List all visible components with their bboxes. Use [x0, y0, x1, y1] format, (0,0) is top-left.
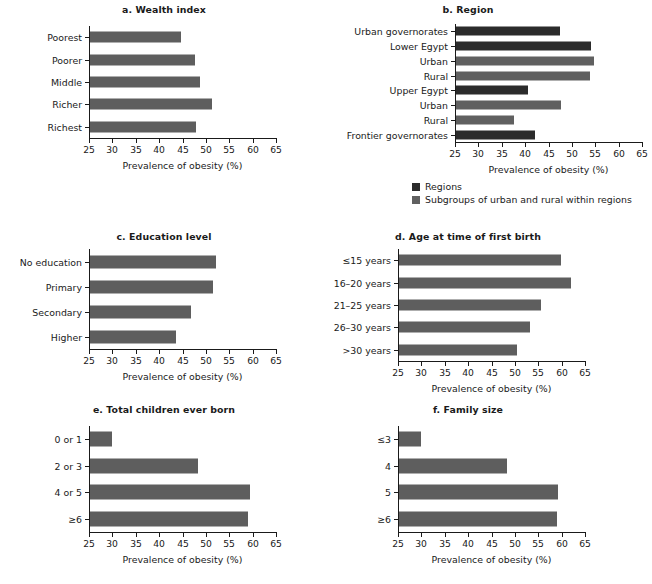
panel-title-d: d. Age at time of first birth [318, 231, 618, 242]
category-label-e-0: 0 or 1 [55, 434, 82, 445]
category-label-b-0: Urban governorates [354, 26, 448, 37]
category-label-b-2: Urban [420, 55, 448, 66]
legend-item-regions: Regions [412, 180, 632, 193]
bar-c-0 [90, 255, 216, 268]
bar-d-1 [399, 277, 571, 288]
x-tick-label-a-30: 30 [99, 144, 125, 155]
x-tick-c-55 [229, 350, 230, 354]
y-tick-d-0 [394, 260, 398, 261]
bar-a-4 [90, 121, 196, 132]
category-label-d-1: 16–20 years [334, 277, 391, 288]
x-tick-label-c-55: 55 [216, 355, 242, 366]
x-axis-title-a: Prevalence of obesity (%) [89, 160, 276, 171]
x-tick-e-30 [112, 533, 113, 537]
category-label-a-0: Poorest [47, 32, 82, 43]
x-tick-e-25 [89, 533, 90, 537]
x-tick-f-30 [421, 533, 422, 537]
x-tick-b-45 [549, 143, 550, 147]
chart-panel-f: f. Family size253035404550556065≤345≥6Pr… [318, 404, 618, 578]
plot-area-f: 253035404550556065≤345≥6 [398, 426, 585, 532]
x-tick-d-40 [468, 362, 469, 366]
category-label-c-1: Primary [46, 281, 82, 292]
x-tick-label-c-40: 40 [146, 355, 172, 366]
x-tick-c-30 [112, 350, 113, 354]
y-tick-d-1 [394, 283, 398, 284]
x-tick-d-60 [562, 362, 563, 366]
y-tick-f-0 [394, 439, 398, 440]
x-tick-label-a-40: 40 [146, 144, 172, 155]
category-label-b-6: Rural [424, 114, 448, 125]
x-tick-a-50 [206, 139, 207, 143]
x-tick-b-25 [455, 143, 456, 147]
x-tick-d-25 [398, 362, 399, 366]
x-tick-label-d-40: 40 [455, 367, 481, 378]
x-tick-c-65 [276, 350, 277, 354]
y-tick-c-2 [85, 312, 89, 313]
bar-e-3 [90, 511, 248, 526]
bar-c-1 [90, 280, 213, 293]
category-label-a-4: Richest [47, 121, 82, 132]
x-tick-f-65 [585, 533, 586, 537]
plot-area-e: 2530354045505560650 or 12 or 34 or 5≥6 [89, 426, 276, 532]
chart-panel-d: d. Age at time of first birth25303540455… [318, 231, 618, 407]
x-axis-title-e: Prevalence of obesity (%) [89, 554, 276, 565]
bar-a-0 [90, 32, 181, 43]
category-label-f-0: ≤3 [377, 434, 391, 445]
x-tick-d-65 [585, 362, 586, 366]
bar-a-1 [90, 54, 195, 65]
category-label-c-0: No education [20, 256, 82, 267]
x-tick-label-c-65: 65 [263, 355, 289, 366]
category-label-b-3: Rural [424, 70, 448, 81]
x-tick-label-e-40: 40 [146, 538, 172, 549]
x-tick-label-d-30: 30 [408, 367, 434, 378]
y-tick-e-2 [85, 492, 89, 493]
plot-area-d: 253035404550556065≤15 years16–20 years21… [398, 249, 585, 361]
chart-legend: RegionsSubgroups of urban and rural with… [412, 180, 632, 206]
x-tick-e-50 [206, 533, 207, 537]
x-tick-f-45 [492, 533, 493, 537]
x-axis-title-f: Prevalence of obesity (%) [398, 554, 585, 565]
y-tick-e-0 [85, 439, 89, 440]
bar-c-2 [90, 305, 191, 318]
x-tick-label-b-40: 40 [512, 148, 538, 159]
panel-title-c: c. Education level [14, 231, 314, 242]
y-tick-d-4 [394, 350, 398, 351]
bar-b-3 [456, 71, 590, 80]
x-tick-b-35 [502, 143, 503, 147]
plot-area-a: 253035404550556065PoorestPoorerMiddleRic… [89, 26, 276, 138]
x-axis-title-c: Prevalence of obesity (%) [89, 371, 276, 382]
x-tick-b-30 [478, 143, 479, 147]
legend-swatch-subgroups [412, 196, 420, 204]
bar-e-1 [90, 458, 198, 473]
x-tick-b-60 [619, 143, 620, 147]
chart-panel-b: b. Region253035404550556065Urban governo… [318, 4, 618, 188]
x-tick-f-25 [398, 533, 399, 537]
x-tick-c-35 [136, 350, 137, 354]
x-tick-label-e-30: 30 [99, 538, 125, 549]
bar-b-4 [456, 86, 528, 95]
legend-swatch-regions [412, 183, 420, 191]
bar-d-2 [399, 300, 541, 311]
y-tick-c-3 [85, 337, 89, 338]
x-tick-c-40 [159, 350, 160, 354]
x-tick-label-f-65: 65 [572, 538, 598, 549]
y-tick-b-0 [451, 31, 455, 32]
plot-area-c: 253035404550556065No educationPrimarySec… [89, 249, 276, 349]
bar-c-3 [90, 330, 176, 343]
bar-f-2 [399, 485, 558, 500]
x-tick-label-f-55: 55 [525, 538, 551, 549]
x-tick-f-35 [445, 533, 446, 537]
category-label-c-3: Higher [51, 331, 82, 342]
legend-label-subgroups: Subgroups of urban and rural within regi… [425, 194, 632, 205]
y-tick-d-3 [394, 327, 398, 328]
category-label-d-0: ≤15 years [342, 255, 391, 266]
y-tick-e-3 [85, 519, 89, 520]
y-tick-a-3 [85, 104, 89, 105]
panel-title-f: f. Family size [318, 404, 618, 415]
legend-item-subgroups: Subgroups of urban and rural within regi… [412, 193, 632, 206]
bar-f-1 [399, 458, 507, 473]
x-tick-d-35 [445, 362, 446, 366]
x-tick-a-40 [159, 139, 160, 143]
y-tick-f-2 [394, 492, 398, 493]
